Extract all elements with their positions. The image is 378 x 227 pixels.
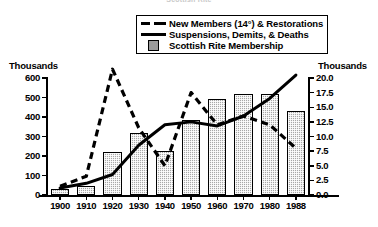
chart-figure: Scottish Rite New Members (14°) & Restor… — [0, 0, 378, 227]
legend-label-new-members: New Members (14°) & Restorations — [169, 18, 323, 29]
right-axis-tick — [309, 107, 314, 109]
x-axis-line — [39, 195, 339, 197]
right-axis-tick-label: 10.0 — [316, 131, 350, 142]
right-axis-tick-label: 5.0 — [316, 160, 350, 171]
legend-label-membership: Scottish Rite Membership — [169, 40, 283, 51]
right-axis-tick — [309, 136, 314, 138]
solid-line-icon — [140, 33, 166, 37]
filled-box-icon — [140, 40, 166, 51]
left-axis-tick-label: 400 — [0, 111, 40, 122]
line-series-group — [47, 78, 309, 195]
left-axis-tick-label: 200 — [0, 150, 40, 161]
legend-item-membership: Scottish Rite Membership — [140, 40, 323, 51]
right-axis-tick — [309, 77, 314, 79]
right-axis-tick-label: 15.0 — [316, 101, 350, 112]
chart-legend: New Members (14°) & Restorations Suspens… — [136, 15, 328, 54]
right-axis-tick-label: 17.5 — [316, 87, 350, 98]
right-axis-title: Thousands — [318, 60, 367, 71]
dashed-line-new-members-restorations — [60, 69, 296, 186]
right-axis-tick — [309, 92, 314, 94]
left-axis-title: Thousands — [9, 60, 58, 71]
left-axis-tick-label: 500 — [0, 92, 40, 103]
left-axis-tick-label: 0 — [0, 189, 40, 200]
legend-item-new-members: New Members (14°) & Restorations — [140, 18, 323, 29]
right-axis-tick — [309, 150, 314, 152]
left-axis-tick-label: 600 — [0, 72, 40, 83]
right-axis-tick-label: 12.5 — [316, 116, 350, 127]
chart-top-caption: Scottish Rite — [0, 0, 378, 3]
solid-line-suspensions-demits-deaths — [60, 75, 296, 188]
left-axis-tick-label: 300 — [0, 131, 40, 142]
right-axis-tick-label: 20.0 — [316, 72, 350, 83]
legend-label-suspensions: Suspensions, Demits, & Deaths — [169, 29, 309, 40]
right-axis-tick — [309, 194, 314, 196]
right-axis-tick — [309, 121, 314, 123]
legend-item-suspensions: Suspensions, Demits, & Deaths — [140, 29, 323, 40]
x-axis-tick-label: 1988 — [276, 200, 316, 211]
right-axis-tick-label: 2.5 — [316, 174, 350, 185]
right-axis-tick — [309, 180, 314, 182]
right-axis-tick-label: 7.5 — [316, 145, 350, 156]
right-axis-tick — [309, 165, 314, 167]
right-axis-tick-label: 0.0 — [316, 189, 350, 200]
left-axis-tick-label: 100 — [0, 170, 40, 181]
dashed-line-icon — [140, 22, 166, 25]
